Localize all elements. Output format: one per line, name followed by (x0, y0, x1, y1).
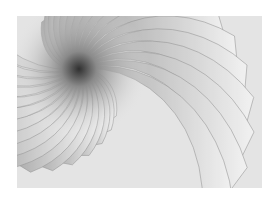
spiral-graphic (17, 16, 262, 188)
spiral-artwork (17, 16, 262, 188)
